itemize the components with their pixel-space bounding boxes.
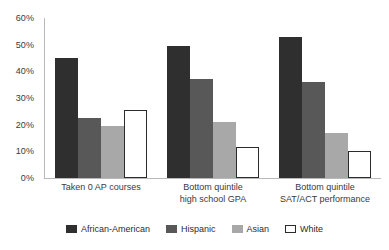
bar[interactable]	[190, 79, 213, 178]
bar[interactable]	[302, 82, 325, 178]
bar[interactable]	[78, 118, 101, 178]
bar[interactable]	[325, 133, 348, 178]
bar-group	[157, 18, 269, 178]
x-axis-category-label: Bottom quintilehigh school GPA	[157, 182, 269, 212]
bar-group	[45, 18, 157, 178]
white-swatch	[285, 225, 296, 233]
legend-item[interactable]: Hispanic	[166, 224, 216, 234]
legend-item[interactable]: White	[285, 224, 323, 234]
x-axis-category-label: Taken 0 AP courses	[45, 182, 157, 212]
y-axis-tick-20: 20%	[16, 120, 34, 130]
bar[interactable]	[348, 151, 371, 178]
x-axis-label-line: Taken 0 AP courses	[45, 182, 157, 194]
bar[interactable]	[124, 110, 147, 178]
y-axis-tick-labels: 60%50%40%30%20%10%0%	[0, 18, 40, 178]
legend-item-label: Hispanic	[181, 224, 216, 234]
legend-item-label: Asian	[247, 224, 270, 234]
legend-item[interactable]: African-American	[66, 224, 150, 234]
x-axis-baseline	[44, 178, 381, 179]
bar[interactable]	[213, 122, 236, 178]
asian-swatch	[232, 225, 243, 233]
x-axis-label-line: high school GPA	[157, 194, 269, 206]
y-axis-tick-60: 60%	[16, 13, 34, 23]
legend-item[interactable]: Asian	[232, 224, 270, 234]
x-axis-category-label: Bottom quintileSAT/ACT performance	[269, 182, 381, 212]
y-axis-tick-50: 50%	[16, 40, 34, 50]
y-axis-tick-30: 30%	[16, 93, 34, 103]
x-axis-label-line: SAT/ACT performance	[269, 194, 381, 206]
african-american-swatch	[66, 225, 77, 233]
grouped-bar-chart: 60%50%40%30%20%10%0% Taken 0 AP coursesB…	[0, 0, 389, 250]
legend-item-label: African-American	[81, 224, 150, 234]
bar[interactable]	[236, 147, 259, 178]
y-axis-tick-0: 0%	[21, 173, 34, 183]
hispanic-swatch	[166, 225, 177, 233]
bar[interactable]	[101, 126, 124, 178]
chart-legend: African-AmericanHispanicAsianWhite	[0, 224, 389, 234]
bar[interactable]	[55, 58, 78, 178]
y-axis-tick-10: 10%	[16, 146, 34, 156]
bar-groups	[45, 18, 381, 178]
x-axis-category-labels: Taken 0 AP coursesBottom quintilehigh sc…	[45, 182, 381, 212]
bar[interactable]	[167, 46, 190, 178]
bar-set	[269, 18, 381, 178]
plot-area	[44, 18, 381, 178]
bar-group	[269, 18, 381, 178]
bar-set	[157, 18, 269, 178]
bar-set	[45, 18, 157, 178]
legend-item-label: White	[300, 224, 323, 234]
bar[interactable]	[279, 37, 302, 178]
y-axis-tick-40: 40%	[16, 66, 34, 76]
x-axis-label-line: Bottom quintile	[269, 182, 381, 194]
x-axis-label-line: Bottom quintile	[157, 182, 269, 194]
